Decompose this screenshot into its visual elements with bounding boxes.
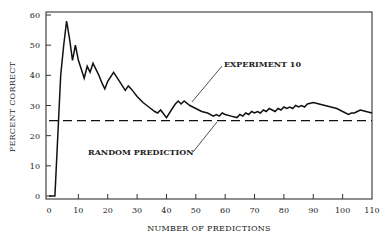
random-leader-line xyxy=(193,122,217,152)
x-tick-label: 60 xyxy=(220,206,230,215)
x-tick-label: 100 xyxy=(335,206,350,215)
y-axis: 0102030405060 xyxy=(30,11,51,201)
x-tick-label: 10 xyxy=(73,206,83,215)
x-tick-label: 90 xyxy=(308,206,318,215)
x-axis: 0102030405060708090100110 xyxy=(46,194,379,215)
x-tick-label: 0 xyxy=(46,206,51,215)
x-tick-label: 70 xyxy=(249,206,259,215)
experiment-10-line xyxy=(49,21,372,196)
experiment-leader-line xyxy=(192,66,222,102)
random-annotation: RANDOM PREDICTION xyxy=(88,147,194,157)
y-tick-label: 0 xyxy=(35,192,40,201)
series-group xyxy=(49,21,372,196)
experiment-annotation: EXPERIMENT 10 xyxy=(224,59,301,69)
x-tick-label: 50 xyxy=(191,206,201,215)
x-tick-label: 40 xyxy=(161,206,171,215)
y-tick-label: 60 xyxy=(30,11,40,20)
x-tick-label: 20 xyxy=(103,206,113,215)
y-tick-label: 10 xyxy=(30,162,40,171)
chart: 0102030405060 0102030405060708090100110 … xyxy=(0,0,388,241)
x-tick-label: 80 xyxy=(279,206,289,215)
x-tick-label: 110 xyxy=(364,206,379,215)
x-tick-label: 30 xyxy=(132,206,142,215)
y-tick-label: 30 xyxy=(30,102,40,111)
y-tick-label: 40 xyxy=(30,71,40,80)
y-tick-label: 50 xyxy=(30,41,40,50)
y-tick-label: 20 xyxy=(30,132,40,141)
x-axis-title: NUMBER OF PREDICTIONS xyxy=(147,224,271,233)
y-axis-title: PERCENT CORRECT xyxy=(8,61,17,152)
